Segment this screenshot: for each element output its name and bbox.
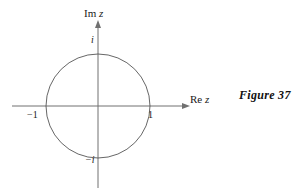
imaginary-axis-label: Im z — [84, 8, 103, 19]
figure-panel: Im z Re z i −i −1 1 Figure 37 — [0, 0, 302, 196]
tick-label-negative-one: −1 — [27, 110, 38, 120]
real-axis-arrowhead — [182, 103, 190, 109]
real-axis-label-prefix: Re — [190, 93, 202, 105]
tick-label-one: 1 — [148, 110, 153, 120]
real-axis-label: Re z — [190, 94, 209, 105]
real-axis-label-variable: z — [205, 93, 209, 105]
tick-label-negative-i: −i — [85, 155, 95, 165]
imaginary-axis-arrowhead — [95, 20, 101, 28]
imaginary-axis-label-variable: z — [99, 7, 103, 19]
tick-label-i: i — [91, 35, 94, 45]
figure-caption: Figure 37 — [239, 88, 291, 103]
imaginary-axis-label-prefix: Im — [84, 7, 96, 19]
